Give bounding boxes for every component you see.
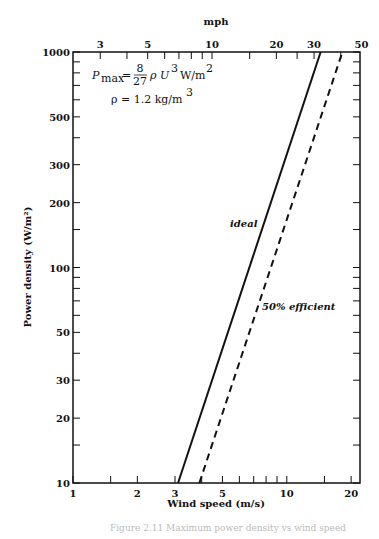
formula-p: P [91,69,100,82]
x2-tick-label: 3 [97,39,104,50]
formula-num: 8 [137,62,144,75]
formula-units: W/m [180,69,206,82]
top-axis-title: mph [204,16,230,27]
x-tick-label: 10 [280,488,294,499]
y-tick-label: 50 [56,327,70,338]
x-tick-label: 2 [134,488,141,499]
formula-eq: = [122,69,131,82]
formula-rest: ρ U [149,69,170,82]
formula-exp: 3 [171,62,178,75]
y-tick-label: 20 [56,413,70,424]
formula-annotation: P max = 8 27 ρ U 3 W/m 2 ρ = 1.2 kg/m 3 [91,62,213,106]
y-tick-label: 300 [49,160,70,171]
y-tick-label: 500 [49,112,70,123]
y-tick-label: 100 [49,263,70,274]
axis-ticks [73,52,360,483]
series-label-ideal: ideal [230,218,258,229]
plot-frame [73,52,360,483]
rho-exp: 3 [186,86,193,99]
x2-tick-label: 5 [144,39,151,50]
series-label-efficient: 50% efficient [262,301,336,312]
series-ideal-line [178,52,321,483]
y-tick-label: 10 [56,478,70,489]
y-tick-label: 1000 [42,47,70,58]
x-tick-label: 20 [344,488,358,499]
x2-tick-label: 50 [355,39,369,50]
x2-tick-label: 10 [205,39,219,50]
series-50pct-line [199,52,342,483]
y-axis-title: Power density (W/m²) [22,207,33,328]
x2-tick-label: 20 [269,39,283,50]
y-tick-label: 30 [56,375,70,386]
formula-units-exp: 2 [206,62,213,75]
figure-caption: Figure 2.11 Maximum power density vs win… [110,523,346,533]
formula-den: 27 [133,75,147,88]
x2-tick-label: 30 [307,39,321,50]
x-tick-label: 1 [70,488,77,499]
rho-line: ρ = 1.2 kg/m [111,93,183,106]
axis-tick-labels: 1235102035102030501020305010020030050010… [42,39,368,499]
x-axis-title: Wind speed (m/s) [166,498,265,509]
power-density-chart: 1235102035102030501020305010020030050010… [0,0,379,539]
y-tick-label: 200 [49,198,70,209]
